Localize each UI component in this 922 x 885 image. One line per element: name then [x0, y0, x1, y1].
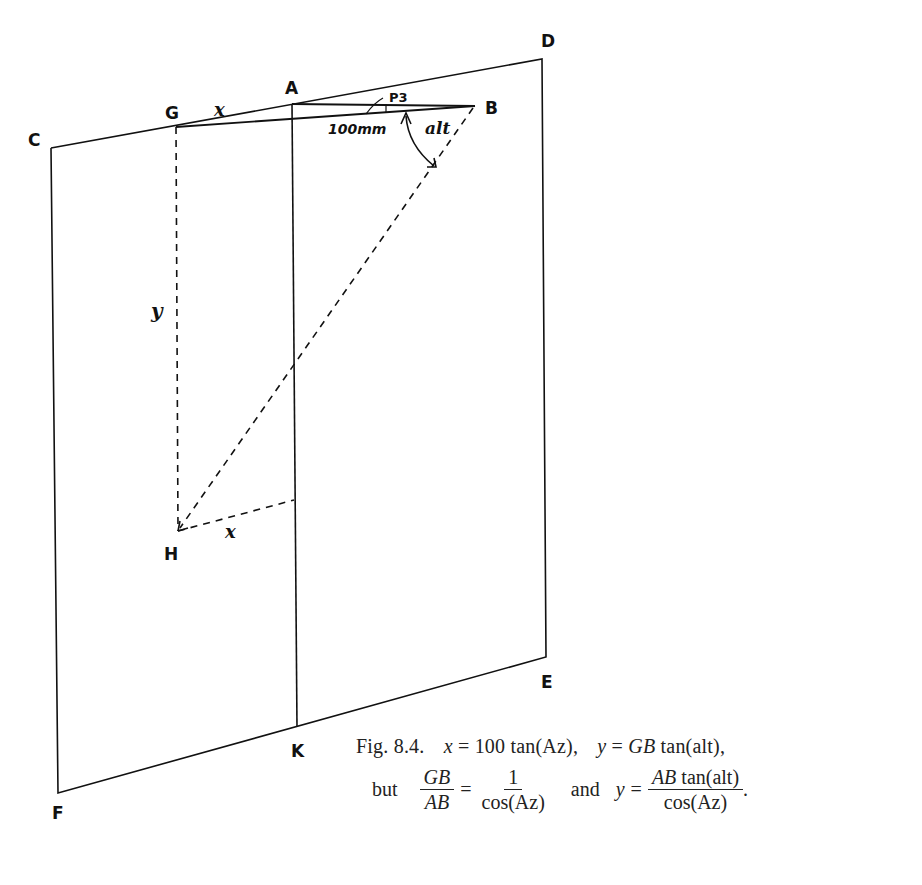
but-text: but [372, 778, 398, 801]
fraction-gb-ab: GB AB [420, 766, 455, 813]
equals-sign: = [460, 778, 471, 801]
label-F: F [52, 803, 64, 823]
label-B: B [485, 98, 498, 118]
fraction-1-cos: 1 cos(Az) [478, 766, 549, 813]
eq3-lhs: y [616, 778, 625, 801]
frac3-num-ab: AB [652, 766, 676, 788]
eq2-eq: = [612, 735, 623, 757]
frac1-numerator: GB [420, 766, 455, 790]
frac2-denominator: cos(Az) [478, 790, 549, 813]
and-text: and [571, 778, 600, 801]
label-K: K [291, 741, 305, 761]
frac3-numerator: AB tan(alt) [648, 766, 743, 790]
p3-mark [366, 98, 383, 114]
fig-number: Fig. 8.4. [356, 735, 424, 757]
label-x-top: x [213, 99, 225, 120]
label-y: y [150, 299, 164, 323]
frac3-denominator: cos(Az) [660, 790, 731, 813]
label-100mm: 100mm [328, 121, 386, 137]
eq3-eq: = [631, 778, 642, 801]
caption-line-1: Fig. 8.4. x = 100 tan(Az), y = GB tan(al… [356, 735, 748, 758]
label-D: D [541, 31, 555, 51]
label-P3: P3 [389, 90, 408, 105]
frac3-num-tan: tan(alt) [676, 766, 739, 788]
period: . [743, 778, 748, 801]
wall-outline [51, 59, 546, 793]
frac1-denominator: AB [421, 790, 453, 813]
label-G: G [165, 103, 179, 123]
eq1-lhs: x [444, 735, 453, 757]
label-alt: alt [425, 118, 450, 138]
label-H: H [164, 544, 178, 564]
frac2-numerator: 1 [504, 766, 522, 790]
figure-caption: Fig. 8.4. x = 100 tan(Az), y = GB tan(al… [356, 735, 748, 813]
label-E: E [541, 672, 553, 692]
eq2-gb: GB [628, 735, 655, 757]
eq1-rhs: = 100 tan(Az), [458, 735, 578, 757]
line-AB [292, 104, 475, 106]
alt-arrow-bottom [427, 158, 436, 167]
line-AK [292, 104, 297, 727]
label-A: A [285, 78, 299, 98]
line-BH [180, 108, 473, 528]
eq2-rhs: tan(alt), [661, 735, 726, 757]
line-GH [176, 127, 178, 531]
arrowhead-H [178, 521, 188, 531]
label-C: C [28, 130, 40, 150]
eq2-lhs: y [597, 735, 606, 757]
label-x-bottom: x [224, 521, 236, 542]
fraction-ab-tan-cos: AB tan(alt) cos(Az) [648, 766, 743, 813]
caption-line-2: but GB AB = 1 cos(Az) and y = AB tan(alt… [356, 766, 748, 813]
